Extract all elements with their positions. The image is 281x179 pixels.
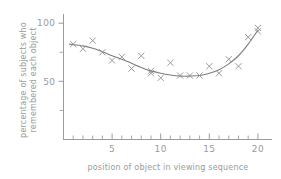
data-point-marker xyxy=(255,28,261,34)
y-axis-ticks xyxy=(59,23,64,110)
data-point-marker xyxy=(128,65,134,71)
data-point-marker xyxy=(235,63,241,69)
y-tick-label: 50 xyxy=(43,77,55,87)
chart-container: 50100 5101520 position of object in view… xyxy=(0,0,281,179)
data-point-marker xyxy=(138,53,144,59)
data-point-marker xyxy=(226,56,232,62)
data-point-marker xyxy=(206,63,212,69)
x-axis-title: position of object in viewing sequence xyxy=(87,163,248,172)
x-axis-ticks xyxy=(73,134,258,140)
y-axis-tick-labels: 50100 xyxy=(37,18,55,86)
x-tick-label: 10 xyxy=(155,144,167,154)
data-point-marker xyxy=(167,60,173,66)
x-tick-label: 20 xyxy=(252,144,264,154)
data-point-marker xyxy=(158,75,164,81)
data-point-marker xyxy=(90,38,96,44)
data-point-marker xyxy=(216,70,222,76)
x-tick-label: 15 xyxy=(203,144,215,154)
y-axis-title-line1: percentage of subjects who xyxy=(19,22,28,138)
data-point-marker xyxy=(245,34,251,40)
y-tick-label: 100 xyxy=(37,18,55,28)
fitted-trend-curve xyxy=(69,30,258,76)
y-axis-title-line2: remembered each object xyxy=(29,27,38,132)
data-point-markers xyxy=(70,25,261,81)
axes-group xyxy=(64,14,273,140)
x-axis-tick-labels: 5101520 xyxy=(109,144,264,154)
serial-position-scatter-chart: 50100 5101520 position of object in view… xyxy=(0,0,281,179)
data-point-marker xyxy=(80,46,86,52)
x-tick-label: 5 xyxy=(109,144,115,154)
data-point-marker xyxy=(109,57,115,63)
